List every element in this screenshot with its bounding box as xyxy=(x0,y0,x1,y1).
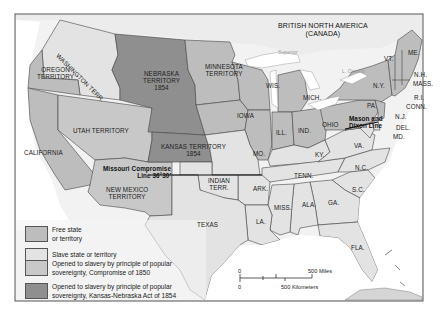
label-canada: BRITISH NORTH AMERICA (CANADA) xyxy=(278,22,368,38)
label-miss: MISS. xyxy=(274,204,292,211)
label-lake-superior: Superior xyxy=(278,50,298,56)
label-me: ME. xyxy=(408,49,420,56)
label-la: LA. xyxy=(256,218,266,225)
label-pa: PA. xyxy=(367,102,377,109)
legend-swatch-free xyxy=(25,226,48,242)
label-ri: R.I. xyxy=(414,94,424,101)
scale-zero-miles: 0 xyxy=(238,268,241,274)
label-nj: N.J. xyxy=(395,113,407,120)
label-ala: ALA. xyxy=(302,201,316,208)
label-indian-territory: INDIAN TERR. xyxy=(208,177,230,191)
label-conn: CONN. xyxy=(406,103,427,110)
label-nh: N.H. xyxy=(414,71,427,78)
label-new-mexico-territory: NEW MEXICO TERRITORY xyxy=(106,186,148,200)
label-nc: N.C. xyxy=(355,164,368,171)
scale-zero-km: 0 xyxy=(238,284,241,290)
label-missouri-compromise: Missouri Compromise Line 36°30′ xyxy=(103,165,171,179)
label-ill: ILL. xyxy=(276,129,287,136)
label-utah-territory: UTAH TERRITORY xyxy=(73,127,129,134)
legend-swatch-kansas-nebraska xyxy=(25,283,48,299)
label-ind: IND. xyxy=(298,127,311,134)
legend-swatch-compromise-1850 xyxy=(25,260,48,276)
label-lake-ontario: L. Ontario xyxy=(342,69,365,75)
label-wis: WIS. xyxy=(266,82,280,89)
label-mich: MICH. xyxy=(303,94,321,101)
label-tenn: TENN. xyxy=(294,172,313,179)
label-vt: VT. xyxy=(384,55,393,62)
label-ohio: OHIO xyxy=(322,121,339,128)
label-kansas-territory: KANSAS TERRITORY 1854 xyxy=(161,143,226,157)
label-sc: S.C. xyxy=(352,186,365,193)
label-fla: FLA. xyxy=(351,244,365,251)
label-ga: GA. xyxy=(328,199,339,206)
label-iowa: IOWA xyxy=(237,112,254,119)
label-oregon-territory: OREGON TERRITORY xyxy=(37,66,74,80)
label-california: CALIFORNIA xyxy=(24,149,63,156)
label-mass: MASS. xyxy=(413,80,433,87)
label-mo: MO. xyxy=(253,150,265,157)
legend-item-compromise-1850: Opened to slavery by principle of popula… xyxy=(25,260,172,278)
label-del: DEL. xyxy=(396,124,410,131)
label-ky: KY. xyxy=(315,151,325,158)
label-ark: ARK. xyxy=(253,185,268,192)
label-md: MD. xyxy=(393,133,405,140)
label-mason-dixon: Mason and Dixon Line xyxy=(349,115,383,129)
label-nebraska-territory: NEBRASKA TERRITORY 1854 xyxy=(143,70,180,92)
scale-500-miles: 500 Miles xyxy=(308,268,332,274)
label-texas: TEXAS xyxy=(197,221,218,228)
label-minnesota-territory: MINNESOTA TERRITORY xyxy=(205,63,243,77)
legend-item-kansas-nebraska: Opened to slavery by principle of popula… xyxy=(25,283,176,301)
scale-500-km: 500 Kilometers xyxy=(281,284,318,290)
label-ny: N.Y. xyxy=(373,82,385,89)
legend-item-free: Free state or territory xyxy=(25,226,82,244)
label-va: VA. xyxy=(354,142,364,149)
